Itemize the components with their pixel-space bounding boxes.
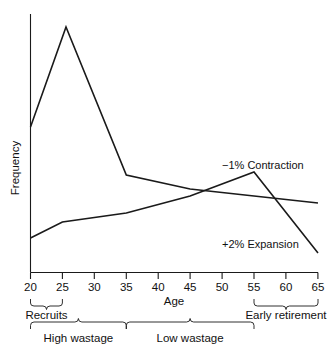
recruits-brace-path xyxy=(31,299,63,310)
line-chart: 20 25 30 35 40 45 50 55 60 65 Age Freque… xyxy=(0,0,330,359)
chart-figure: 20 25 30 35 40 45 50 55 60 65 Age Freque… xyxy=(0,0,330,359)
chart-series-group xyxy=(31,27,319,253)
early-retirement-brace-path xyxy=(254,299,318,310)
low-wastage-brace-path xyxy=(126,319,254,330)
chart-axes xyxy=(31,14,319,273)
x-tick-label-55: 55 xyxy=(248,281,261,293)
bracket-low-wastage: Low wastage xyxy=(126,319,254,345)
x-axis-title: Age xyxy=(164,295,184,307)
x-tick-label-60: 60 xyxy=(280,281,293,293)
bracket-high-wastage: High wastage xyxy=(31,319,127,345)
y-axis-title: Frequency xyxy=(9,141,21,196)
series-label-contraction: −1% Contraction xyxy=(222,159,304,171)
x-axis-tick-labels: 20 25 30 35 40 45 50 55 60 65 xyxy=(24,281,324,293)
x-tick-label-35: 35 xyxy=(120,281,133,293)
x-tick-label-45: 45 xyxy=(184,281,197,293)
high-wastage-label: High wastage xyxy=(44,332,114,344)
x-tick-label-30: 30 xyxy=(88,281,101,293)
early-retirement-label: Early retirement xyxy=(245,309,327,321)
series-line-contraction xyxy=(31,27,319,203)
recruits-label: Recruits xyxy=(25,309,67,321)
x-tick-label-25: 25 xyxy=(56,281,69,293)
series-label-expansion: +2% Expansion xyxy=(222,238,299,250)
x-tick-label-40: 40 xyxy=(152,281,165,293)
x-tick-label-65: 65 xyxy=(312,281,325,293)
x-tick-label-50: 50 xyxy=(216,281,229,293)
x-axis-ticks xyxy=(31,273,318,280)
x-tick-label-20: 20 xyxy=(24,281,37,293)
bracket-early-retirement: Early retirement xyxy=(245,299,327,321)
low-wastage-label: Low wastage xyxy=(157,332,224,344)
bracket-recruits: Recruits xyxy=(25,299,67,321)
